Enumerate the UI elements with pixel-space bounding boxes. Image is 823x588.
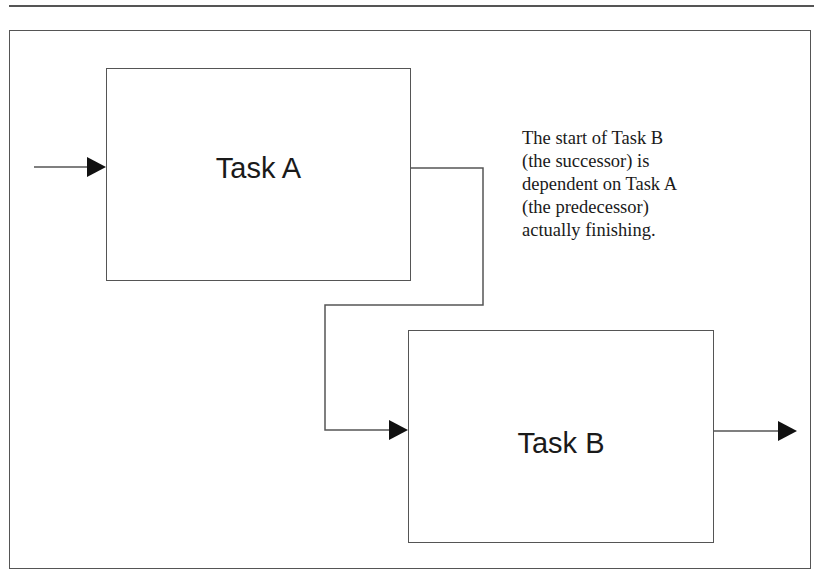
task-b-box: Task B (408, 330, 714, 543)
dependency-note: The start of Task B (the successor) is d… (522, 127, 677, 242)
task-a-box: Task A (106, 68, 411, 281)
arrowhead-icon (87, 157, 106, 177)
arrowhead-icon (389, 420, 408, 440)
note-line: (the successor) is (522, 150, 677, 173)
task-a-label: Task A (216, 152, 301, 185)
task-b-label: Task B (517, 427, 604, 460)
arrowhead-icon (778, 421, 797, 441)
note-line: dependent on Task A (522, 173, 677, 196)
note-line: (the predecessor) (522, 196, 677, 219)
note-line: actually finishing. (522, 219, 677, 242)
note-line: The start of Task B (522, 127, 677, 150)
input-arrow (34, 157, 106, 177)
output-arrow (714, 421, 797, 441)
